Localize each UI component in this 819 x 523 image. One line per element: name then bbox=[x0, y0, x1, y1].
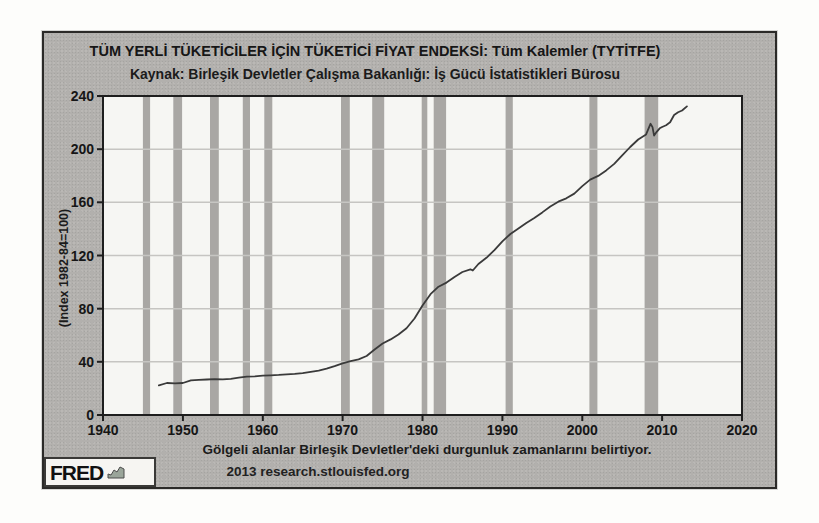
y-axis-tick-label: 0 bbox=[86, 407, 94, 423]
x-axis-tick-label: 1940 bbox=[87, 422, 118, 438]
area-sparkline-icon bbox=[107, 465, 125, 479]
y-axis-tick-label: 40 bbox=[78, 354, 94, 370]
y-axis-tick-label: 80 bbox=[78, 301, 94, 317]
y-axis-tick-label: 200 bbox=[71, 141, 95, 157]
plot-svg: 1940195019601970198019902000201020200408… bbox=[44, 33, 775, 487]
x-axis-tick-label: 1990 bbox=[487, 422, 518, 438]
fred-logo: FRED bbox=[44, 457, 156, 487]
x-axis-tick-label: 2000 bbox=[567, 422, 598, 438]
y-axis-tick-label: 120 bbox=[71, 248, 95, 264]
scanned-page: { "footer": { "credit": "2013 research.s… bbox=[0, 0, 819, 523]
x-axis-tick-label: 1960 bbox=[247, 422, 278, 438]
x-axis-tick-label: 1950 bbox=[167, 422, 198, 438]
y-axis-tick-label: 240 bbox=[71, 88, 95, 104]
x-axis-tick-label: 2010 bbox=[647, 422, 678, 438]
recession-note: Gölgeli alanlar Birleşik Devletler'deki … bbox=[127, 442, 727, 457]
chart-container: TÜM YERLİ TÜKETİCİLER İÇİN TÜKETİCİ FİYA… bbox=[42, 31, 777, 489]
x-axis-tick-label: 1980 bbox=[407, 422, 438, 438]
fred-logo-text: FRED bbox=[50, 462, 103, 483]
x-axis-tick-label: 2020 bbox=[726, 422, 757, 438]
y-axis-tick-label: 160 bbox=[71, 194, 95, 210]
x-axis-tick-label: 1970 bbox=[327, 422, 358, 438]
